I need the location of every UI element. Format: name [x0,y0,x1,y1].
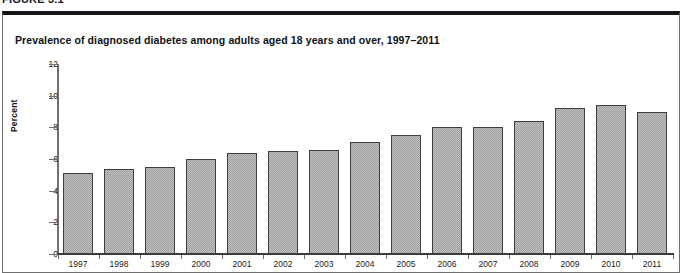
bar-2000 [186,159,216,254]
x-label-2011: 2011 [632,259,672,269]
bar-series [59,64,674,254]
bar-2006 [432,127,462,254]
bar-2002 [268,151,298,254]
x-label-1998: 1998 [99,259,139,269]
x-label-2000: 2000 [181,259,221,269]
x-label-2009: 2009 [550,259,590,269]
y-tick-mark [49,64,58,65]
bar-2010 [596,105,626,254]
x-label-1999: 1999 [140,259,180,269]
x-label-1997: 1997 [58,259,98,269]
bar-2007 [473,127,503,254]
y-tick-2: 2 [0,222,58,223]
x-label-2001: 2001 [222,259,262,269]
y-tick-8: 8 [0,127,58,128]
x-label-2006: 2006 [427,259,467,269]
y-tick-6: 6 [0,159,58,160]
x-tick-mark [673,255,674,259]
bar-2005 [391,135,421,254]
bar-2001 [227,153,257,254]
y-tick-0: 0 [0,254,58,255]
bar-1998 [104,169,134,255]
y-tick-12: 12 [0,64,58,65]
y-tick-mark [49,96,58,97]
y-tick-10: 10 [0,96,58,97]
bar-1997 [63,173,93,254]
x-label-2004: 2004 [345,259,385,269]
y-tick-mark [49,222,58,223]
y-tick-mark [49,254,58,255]
bar-2004 [350,142,380,254]
x-label-2007: 2007 [468,259,508,269]
plot-area: Percent 024681012 1997199819992000200120… [0,0,683,273]
x-label-2003: 2003 [304,259,344,269]
bar-1999 [145,167,175,254]
y-tick-mark [49,127,58,128]
x-label-2002: 2002 [263,259,303,269]
bar-2003 [309,150,339,255]
x-label-2005: 2005 [386,259,426,269]
x-label-2008: 2008 [509,259,549,269]
y-tick-mark [49,159,58,160]
bar-2011 [637,112,667,255]
y-tick-4: 4 [0,191,58,192]
figure-container: FIGURE 3.1 Prevalence of diagnosed diabe… [0,0,683,273]
y-tick-mark [49,191,58,192]
bar-2008 [514,121,544,254]
bar-2009 [555,108,585,254]
x-label-2010: 2010 [591,259,631,269]
